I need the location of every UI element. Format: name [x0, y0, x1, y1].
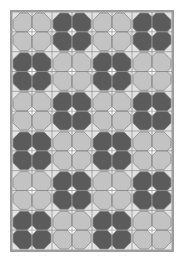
- quilt-pattern: [12, 12, 172, 250]
